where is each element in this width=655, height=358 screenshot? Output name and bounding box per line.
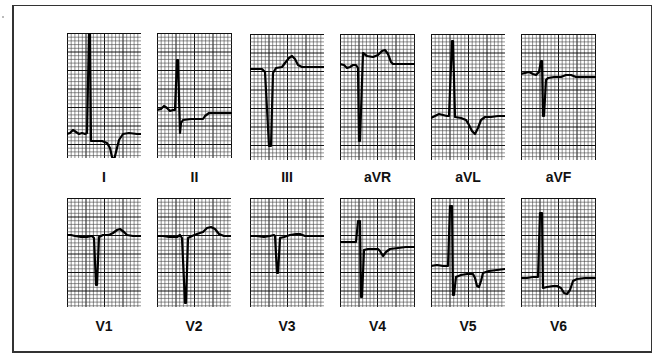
ecg-grid (157, 198, 231, 307)
ecg-grid (157, 33, 232, 158)
ecg-grid (431, 34, 505, 160)
ecg-grid (340, 34, 415, 160)
ecg-grid (521, 34, 596, 160)
ecg-lead-v1 (67, 198, 141, 307)
lead-label: II (150, 169, 240, 185)
lead-label: V3 (242, 318, 332, 334)
ecg-grid (431, 198, 505, 307)
lead-label: aVL (423, 169, 513, 185)
lead-label: V2 (149, 318, 239, 334)
ecg-lead-ii (157, 33, 232, 158)
lead-label: V6 (514, 318, 604, 334)
corner-mark (2, 16, 4, 18)
ecg-lead-v4 (340, 198, 415, 307)
ecg-grid (250, 34, 324, 160)
lead-label: III (242, 169, 332, 185)
ecg-lead-avl (431, 34, 505, 160)
ecg-lead-v5 (431, 198, 505, 307)
lead-label: V5 (423, 318, 513, 334)
ecg-lead-avr (340, 34, 415, 160)
lead-label: V1 (59, 318, 149, 334)
ecg-lead-avf (521, 34, 596, 160)
ecg-grid (340, 198, 415, 307)
ecg-lead-v3 (250, 198, 324, 307)
lead-label: aVR (333, 169, 423, 185)
ecg-grid (250, 198, 324, 307)
ecg-lead-i (67, 33, 141, 158)
ecg-lead-v2 (157, 198, 231, 307)
lead-label: I (59, 169, 149, 185)
ecg-grid (67, 33, 141, 158)
lead-label: aVF (514, 169, 604, 185)
ecg-grid (67, 198, 141, 307)
ecg-grid (521, 198, 596, 307)
ecg-lead-v6 (521, 198, 596, 307)
ecg-lead-iii (250, 34, 324, 160)
lead-label: V4 (333, 318, 423, 334)
